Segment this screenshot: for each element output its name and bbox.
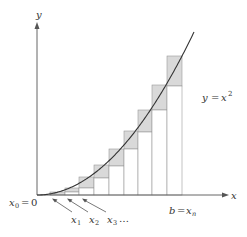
x-axis-arrow-icon <box>222 193 229 198</box>
ellipsis: … <box>119 213 129 224</box>
lower-rect <box>167 86 182 195</box>
svg-text:=: = <box>211 92 219 103</box>
y-axis-label: y <box>35 9 42 20</box>
pointer-x3-line <box>84 200 106 212</box>
lower-rect <box>79 188 94 195</box>
lower-rect <box>124 149 138 195</box>
lower-rect <box>94 178 109 195</box>
curve-equation-label: y = x 2 <box>201 90 232 103</box>
lower-rect <box>138 132 152 195</box>
svg-text:=: = <box>177 205 185 216</box>
svg-text:2: 2 <box>95 219 99 227</box>
lower-rect <box>152 110 167 195</box>
svg-text:b: b <box>169 205 175 216</box>
end-label: b = x n <box>169 205 196 218</box>
riemann-sum-diagram: y x y = x 2 x 0 = 0 b = x n x 1 x 2 x 3 … <box>0 0 247 237</box>
x-axis-label: x <box>231 190 237 201</box>
pointer-x1-line <box>54 200 72 212</box>
y-axis-arrow-icon <box>35 22 40 29</box>
overestimate-rect <box>109 149 124 166</box>
lower-rect <box>109 166 124 195</box>
svg-text:x: x <box>221 92 227 103</box>
svg-text:3: 3 <box>113 219 117 227</box>
svg-text:2: 2 <box>228 90 232 98</box>
overestimate-rect <box>152 85 167 110</box>
svg-text:0: 0 <box>31 197 37 208</box>
overestimate-rect <box>138 110 152 132</box>
svg-text:0: 0 <box>15 202 19 210</box>
partition-labels: x 1 x 2 x 3 … <box>71 213 129 227</box>
svg-text:=: = <box>21 197 29 208</box>
svg-text:y: y <box>201 92 208 103</box>
svg-text:1: 1 <box>77 219 81 227</box>
origin-label: x 0 = 0 <box>9 197 37 210</box>
svg-text:n: n <box>192 210 196 218</box>
overestimate-rect <box>124 131 138 149</box>
partition-pointers <box>52 199 106 213</box>
